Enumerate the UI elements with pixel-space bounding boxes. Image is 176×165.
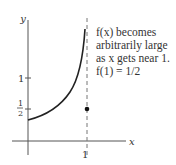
y-tick-label-half-num: 1 xyxy=(18,99,23,108)
y-tick-label-half-den: 2 xyxy=(18,109,23,118)
annotation-line-2: arbitrarily large xyxy=(96,39,176,52)
function-curve xyxy=(28,29,85,120)
annotation: f(x) becomes arbitrarily large as x gets… xyxy=(96,26,176,78)
graph: y x 1 1 2 1 xyxy=(0,0,176,165)
x-tick-label-1: 1 xyxy=(82,149,88,160)
annotation-line-4: f(1) = 1/2 xyxy=(96,65,176,78)
x-axis-label: x xyxy=(129,136,135,147)
annotation-line-1: f(x) becomes xyxy=(96,26,176,39)
y-axis-label: y xyxy=(19,13,26,24)
annotation-line-3: as x gets near 1. xyxy=(96,52,176,65)
point-f1 xyxy=(85,107,90,112)
y-tick-label-1: 1 xyxy=(18,73,24,84)
